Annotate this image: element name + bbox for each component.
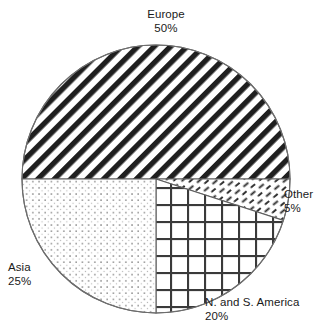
pie-slice-europe[interactable] <box>22 45 290 179</box>
pie-label-america: N. and S. America 20% <box>205 296 299 323</box>
pie-chart: Europe 50% Other 5% N. and S. America 20… <box>0 0 332 333</box>
pie-chart-svg <box>0 0 332 333</box>
pie-label-asia: Asia 25% <box>8 261 31 288</box>
pie-label-europe: Europe 50% <box>0 8 332 35</box>
pie-label-other: Other 5% <box>284 188 313 215</box>
pie-label-europe-name: Europe <box>0 8 332 22</box>
pie-label-america-name: N. and S. America <box>205 296 299 310</box>
pie-label-america-value: 20% <box>205 310 299 324</box>
pie-slice-asia[interactable] <box>22 179 156 313</box>
pie-label-other-name: Other <box>284 188 313 202</box>
pie-label-asia-name: Asia <box>8 261 31 275</box>
pie-label-europe-value: 50% <box>0 22 332 36</box>
pie-label-other-value: 5% <box>284 202 313 216</box>
pie-label-asia-value: 25% <box>8 275 31 289</box>
